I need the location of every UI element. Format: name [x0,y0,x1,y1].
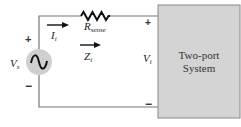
source-plus-sign: + [25,34,31,45]
ac-source-icon [26,49,52,75]
source-label: Vs [10,58,19,71]
impedance-label: Zi [84,51,92,64]
system-box-line1: Two-port [179,49,220,62]
resistor-icon [81,12,110,20]
source-minus-sign: − [25,80,32,92]
bottom-wire [39,75,158,107]
current-label: Ii [51,30,57,43]
system-box-line2: System [183,62,215,75]
top-left-wire [39,16,81,49]
impedance-arrow-icon [80,42,101,48]
current-arrow-icon [47,22,69,28]
system-box-label: Two-port System [158,5,240,118]
resistor-label: Rsense [84,21,106,34]
input-voltage-label: Vi [143,53,152,66]
input-plus-sign: + [145,18,151,28]
input-minus-sign: − [145,98,152,110]
